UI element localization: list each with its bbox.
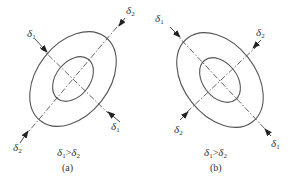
panel-a: δ1 δ2 δ1 δ2 δ1>δ2 (a) bbox=[12, 4, 135, 174]
arrow-delta2-bottom-a bbox=[20, 131, 28, 143]
arrow-delta1-top-a bbox=[35, 39, 47, 52]
label-delta1-top-b: δ1 bbox=[155, 12, 164, 26]
axis-delta2-b bbox=[187, 47, 256, 112]
arrow-delta1-top-b bbox=[170, 27, 180, 37]
arrow-delta2-top-b bbox=[253, 40, 261, 48]
label-delta1-top-a: δ1 bbox=[27, 27, 36, 41]
arrow-delta1-bottom-b bbox=[265, 129, 271, 136]
arrow-delta2-top-a bbox=[119, 18, 125, 26]
label-delta2-top-b: δ2 bbox=[256, 26, 265, 40]
label-delta1-bottom-a: δ1 bbox=[111, 120, 120, 134]
panel-b: δ1 δ2 δ1 δ2 δ1>δ2 (b) bbox=[155, 12, 281, 174]
relation-b: δ1>δ2 bbox=[204, 146, 227, 160]
inner-ellipse-a bbox=[44, 49, 102, 109]
caption-b: (b) bbox=[210, 162, 222, 174]
label-delta2-top-a: δ2 bbox=[126, 4, 135, 18]
relation-a: δ1>δ2 bbox=[57, 146, 80, 160]
arrow-delta2-bottom-b bbox=[180, 112, 188, 120]
label-delta2-bottom-a: δ2 bbox=[13, 141, 22, 155]
label-delta1-bottom-b: δ1 bbox=[271, 137, 280, 151]
axis-delta1-a bbox=[40, 47, 108, 113]
label-delta2-bottom-b: δ2 bbox=[174, 123, 183, 137]
diagram-canvas: δ1 δ2 δ1 δ2 δ1>δ2 (a) δ1 δ2 δ1 δ2 δ1>δ2 … bbox=[0, 0, 291, 179]
axis-delta1-b bbox=[174, 32, 266, 130]
caption-a: (a) bbox=[62, 162, 73, 174]
